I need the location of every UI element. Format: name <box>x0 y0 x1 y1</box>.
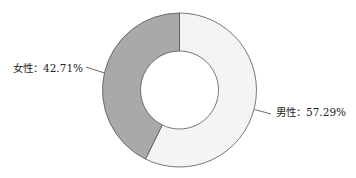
leader-line-female <box>86 67 105 73</box>
leader-line-male <box>255 110 272 115</box>
donut-chart <box>0 0 356 178</box>
label-male: 男性：57.29% <box>276 106 346 118</box>
label-female: 女性：42.71% <box>13 62 83 74</box>
